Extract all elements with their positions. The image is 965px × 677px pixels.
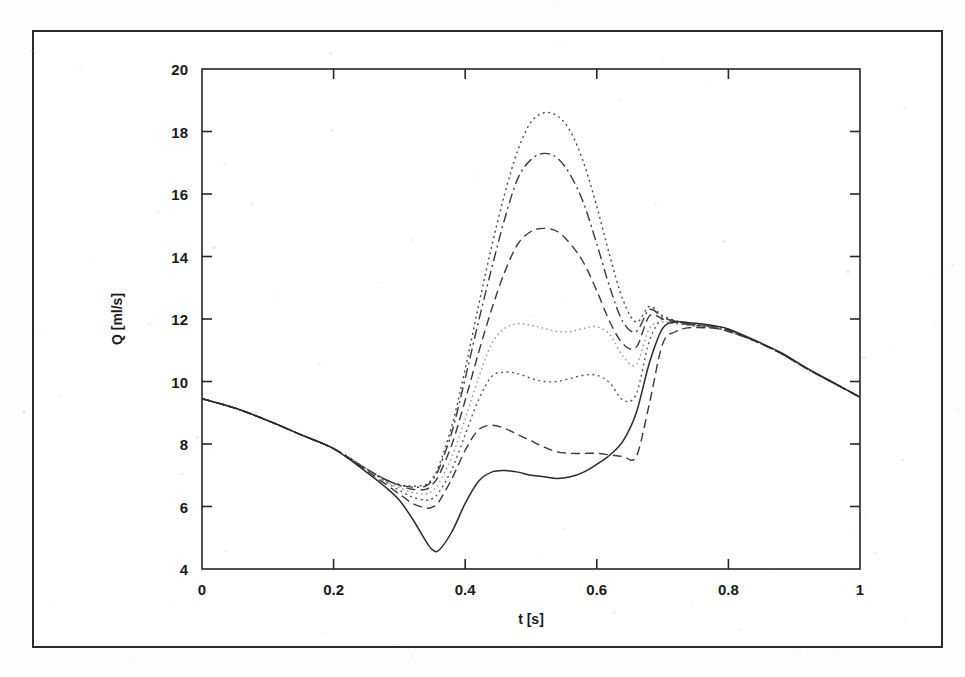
y-tick-label: 8 [180,436,188,453]
paper-speckle [132,663,134,664]
paper-speckle [276,26,277,27]
x-tick-label: 0.6 [586,581,607,598]
paper-speckle [951,264,954,267]
y-tick-label: 20 [171,61,188,78]
y-axis-ticks [202,132,860,507]
paper-speckle [384,7,385,8]
y-axis-title: Q [ml/s] [109,293,125,345]
paper-speckle [838,648,841,650]
paper-speckle [22,410,26,413]
x-tick-label: 1 [856,581,864,598]
paper-speckle [410,655,413,657]
data-curve-4 [202,322,860,494]
data-curve-2 [202,153,860,487]
y-tick-label: 14 [171,249,188,266]
y-tick-label: 16 [171,186,188,203]
y-tick-label: 12 [171,311,188,328]
x-tick-label: 0 [198,581,206,598]
data-curve-6 [202,327,860,508]
data-curve-1 [202,112,860,486]
x-tick-label: 0.4 [455,581,477,598]
x-tick-label: 0.2 [323,581,344,598]
paper-speckle [556,6,558,7]
plot-axes-frame [202,69,860,569]
y-tick-label: 6 [180,499,188,516]
x-axis-tick-labels: 00.20.40.60.81 [198,581,864,598]
figure-root: 468101214161820 00.20.40.60.81 t [s] Q [… [0,0,965,677]
chart-canvas: 468101214161820 00.20.40.60.81 t [s] Q [… [34,32,941,646]
y-tick-label: 18 [171,124,188,141]
y-tick-label: 10 [171,374,188,391]
data-curves-group [202,112,860,551]
y-tick-label: 4 [180,561,189,578]
figure-outer-border: 468101214161820 00.20.40.60.81 t [s] Q [… [32,30,943,648]
paper-speckle [956,408,959,409]
data-curve-3 [202,228,860,489]
data-curve-5 [202,318,860,500]
x-tick-label: 0.8 [718,581,739,598]
data-curve-7 [202,322,860,552]
paper-speckle [798,652,801,654]
x-axis-title: t [s] [518,611,544,627]
y-axis-tick-labels: 468101214161820 [171,61,188,578]
